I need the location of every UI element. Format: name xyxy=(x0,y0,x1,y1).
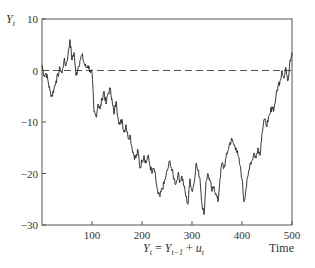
x-tick-label: 300 xyxy=(184,229,201,241)
y-axis-title: Yt xyxy=(6,12,16,28)
plot-frame xyxy=(42,19,292,225)
y-tick-label: −20 xyxy=(21,168,39,180)
random-walk-chart: 100−10−20−30 100200300400500 Yt Time Yt … xyxy=(0,0,315,268)
x-tick-label: 200 xyxy=(134,229,151,241)
y-tick-label: 10 xyxy=(27,13,39,25)
x-axis-title: Time xyxy=(269,241,294,255)
x-tick-label: 400 xyxy=(234,229,251,241)
x-axis-ticks: 100200300400500 xyxy=(84,221,301,241)
random-walk-line xyxy=(42,40,292,215)
x-tick-label: 100 xyxy=(84,229,101,241)
y-tick-label: −30 xyxy=(21,219,39,231)
y-tick-label: 0 xyxy=(33,65,39,77)
y-axis-title-subscript: t xyxy=(13,19,16,28)
x-tick-label: 500 xyxy=(284,229,301,241)
equation-caption: Yt = Yt−1 + ut xyxy=(143,241,205,257)
y-tick-label: −10 xyxy=(21,116,39,128)
